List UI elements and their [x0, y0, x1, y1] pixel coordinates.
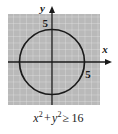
grid-background — [8, 14, 100, 105]
y-tick-label-5: 5 — [43, 17, 49, 29]
equation-right-side: 16 — [70, 111, 84, 125]
y-axis-label: y — [38, 2, 45, 14]
equation-caption: x2+y2≥16 — [0, 110, 118, 126]
math-figure: y x 5 5 x2+y2≥16 — [0, 0, 118, 134]
x-axis-label: x — [101, 43, 108, 55]
x-tick-label-5: 5 — [85, 68, 91, 80]
equation-exponent-y: 2 — [57, 110, 61, 119]
equation-plus-sign: + — [43, 111, 52, 125]
